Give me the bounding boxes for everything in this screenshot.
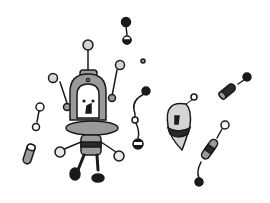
floating-capsule-left: [22, 143, 36, 164]
robot-body: [55, 135, 124, 182]
floating-creature-1: [122, 18, 132, 45]
floating-creature-3: [132, 87, 150, 149]
robot-illustration: [0, 0, 270, 203]
floating-dot: [141, 59, 145, 63]
floating-capsule-bottom: [195, 121, 229, 186]
floating-capsule-right: [218, 73, 251, 100]
robot-collar: [66, 121, 118, 135]
floating-ghost: [167, 94, 197, 150]
robot-head: [70, 70, 106, 120]
floating-creature-2: [33, 103, 45, 131]
